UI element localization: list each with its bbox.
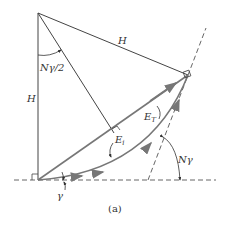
e-i-arrow-3 — [144, 143, 151, 151]
e-i-arrow-1 — [72, 176, 82, 177]
geometry-diagram: H H Nγ/2 ET Ei γ Nγ (a) — [0, 0, 227, 228]
label-e-t: ET — [143, 111, 157, 124]
label-e-i: Ei — [114, 134, 125, 147]
label-half-angle: Nγ/2 — [39, 62, 64, 73]
half-angle-arc — [38, 50, 61, 55]
label-h-slant: H — [117, 35, 127, 46]
right-angle-origin — [32, 174, 38, 180]
e-t-arrow — [150, 83, 176, 101]
e-t-arc — [157, 106, 160, 119]
gamma-arc — [62, 172, 63, 180]
label-gamma: γ — [57, 190, 63, 201]
e-i-arrow-2 — [92, 172, 103, 174]
label-h-vertical: H — [26, 93, 36, 104]
gamma-pointer — [64, 182, 65, 190]
e-i-arc — [110, 143, 113, 157]
bisector-line — [38, 13, 114, 133]
figure-caption: (a) — [108, 203, 122, 214]
label-n-gamma: Nγ — [177, 154, 193, 165]
